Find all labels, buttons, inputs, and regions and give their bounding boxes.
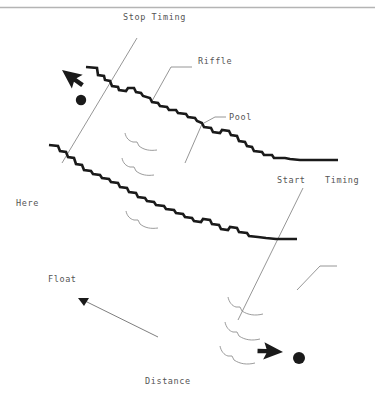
stop-timing-transect (62, 38, 137, 163)
label-timing: Timing (325, 176, 359, 185)
click-dot-upper-left (76, 95, 86, 105)
start-timing-transect (238, 188, 303, 320)
cursor-lower-right (254, 341, 283, 366)
pool-section-tick (185, 124, 202, 163)
label-stop-timing: Stop Timing (123, 13, 186, 22)
pool-leader-line (204, 117, 226, 123)
label-float: Float (48, 275, 77, 284)
label-start: Start (277, 176, 306, 185)
label-riffle: Riffle (198, 57, 232, 66)
flow-hook-marks-mid-channel (122, 133, 158, 228)
label-distance: Distance (145, 377, 191, 386)
stream-timing-diagram: Stop Timing Riffle Pool Start Timing Her… (0, 0, 375, 402)
label-here: Here (16, 199, 39, 208)
stepped-lower-bank-line (49, 145, 297, 239)
diagram-canvas (0, 0, 375, 402)
flow-hook-marks-lower-right (220, 297, 263, 364)
click-dot-lower-right (293, 352, 305, 364)
stepped-upper-bank-line (86, 67, 338, 160)
timing-leader-line (297, 266, 337, 290)
riffle-leader-line (152, 67, 192, 101)
cursor-upper-left (62, 62, 87, 91)
float-direction-arrow (78, 298, 158, 337)
label-pool: Pool (229, 113, 252, 122)
